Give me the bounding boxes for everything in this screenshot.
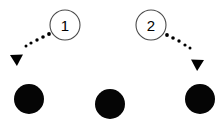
target-dot xyxy=(185,84,215,114)
trail-dot xyxy=(183,43,186,46)
trail-dot xyxy=(189,47,192,50)
trail-dot xyxy=(165,33,169,37)
diagram-canvas: 12 xyxy=(0,0,222,124)
step-marker-label: 1 xyxy=(61,17,69,34)
trail-dots-layer xyxy=(25,32,192,49)
arrow-head-icon xyxy=(191,54,207,71)
arrow-heads-layer xyxy=(7,49,207,71)
step-marker-2: 2 xyxy=(136,10,166,40)
trail-dot xyxy=(35,38,38,41)
step-marker-1: 1 xyxy=(50,10,80,40)
trail-dot xyxy=(171,36,175,40)
target-dot xyxy=(95,89,125,119)
motion-diagram: 12 xyxy=(0,0,222,124)
trail-dot xyxy=(177,39,180,42)
trail-dot xyxy=(47,32,51,36)
step-markers-layer: 12 xyxy=(50,10,166,40)
trail-dot xyxy=(25,45,28,48)
arrow-head-icon xyxy=(7,49,23,66)
trail-dot xyxy=(41,35,45,39)
target-dots-layer xyxy=(14,84,215,119)
target-dot xyxy=(14,84,44,114)
trail-dot xyxy=(29,41,32,44)
step-marker-label: 2 xyxy=(147,17,155,34)
